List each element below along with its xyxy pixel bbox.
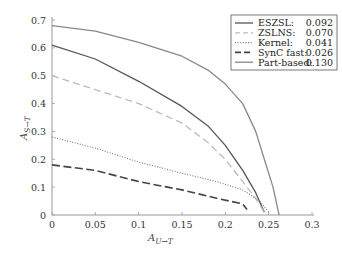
x-axis-label: AU→T	[147, 232, 174, 246]
x-tick-label: 0	[49, 219, 55, 230]
y-axis-label: AS→T	[18, 115, 32, 141]
x-tick-label: 0.3	[304, 219, 319, 230]
y-tick-label: 0.7	[31, 15, 46, 26]
y-tick-label: 0.1	[31, 182, 46, 193]
y-tick-label: 0.6	[31, 42, 46, 53]
chart: 00.050.10.150.20.250.300.10.20.30.40.50.…	[0, 0, 342, 259]
y-tick-label: 0	[40, 210, 46, 221]
x-tick-label: 0.2	[218, 219, 233, 230]
x-tick-label: 0.25	[258, 219, 279, 230]
y-tick-label: 0.3	[31, 126, 46, 137]
legend-label: Part-based:	[258, 57, 313, 68]
x-tick-label: 0.05	[85, 219, 106, 230]
x-tick-label: 0.15	[171, 219, 192, 230]
y-tick-label: 0.2	[31, 154, 46, 165]
legend-value: 0.130	[306, 57, 333, 68]
series-line-kernel	[52, 137, 269, 212]
series-line-zslns	[52, 76, 264, 213]
legend: ESZSL:0.092ZSLNS:0.070Kernel:0.041SynC f…	[231, 15, 337, 70]
y-tick-label: 0.5	[31, 70, 46, 81]
series-line-sync-fast	[52, 165, 247, 210]
y-tick-label: 0.4	[31, 98, 46, 109]
x-tick-label: 0.1	[131, 219, 146, 230]
